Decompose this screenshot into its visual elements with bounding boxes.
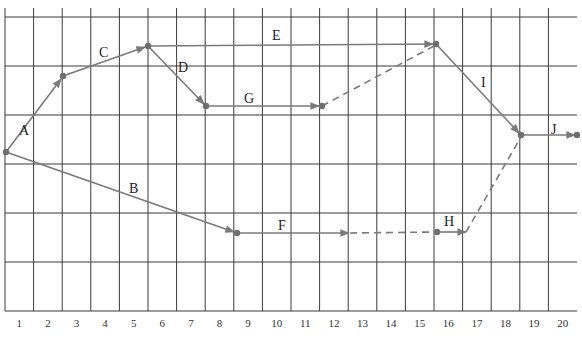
label-a: A — [19, 123, 30, 138]
event-node — [574, 132, 580, 138]
label-c: C — [99, 45, 108, 60]
label-d: D — [178, 60, 188, 75]
time-axis-label: 7 — [188, 317, 194, 329]
time-axis-label: 5 — [131, 317, 137, 329]
event-node — [433, 41, 439, 47]
time-axis-label: 13 — [357, 317, 369, 329]
event-node — [60, 73, 66, 79]
event-node — [203, 103, 209, 109]
time-axis-label: 10 — [271, 317, 283, 329]
label-e: E — [272, 28, 281, 43]
label-i: I — [481, 75, 486, 90]
time-axis-label: 17 — [471, 317, 483, 329]
label-f: F — [278, 218, 286, 233]
time-axis-label: 2 — [45, 317, 51, 329]
time-axis-label: 8 — [217, 317, 223, 329]
time-axis-label: 9 — [245, 317, 251, 329]
grid — [5, 8, 577, 311]
time-axis-label: 6 — [160, 317, 166, 329]
time-axis-label: 14 — [386, 317, 398, 329]
time-axis-labels: 1234567891011121314151617181920 — [17, 317, 569, 329]
event-node — [518, 132, 524, 138]
event-node — [3, 149, 9, 155]
activity-e-arrow — [148, 44, 433, 46]
event-node — [234, 230, 240, 236]
time-axis-label: 16 — [443, 317, 455, 329]
time-axis-label: 20 — [557, 317, 569, 329]
event-node — [319, 103, 325, 109]
label-g: G — [244, 91, 254, 106]
time-axis-label: 12 — [328, 317, 339, 329]
time-axis-label: 18 — [500, 317, 512, 329]
event-node — [145, 43, 151, 49]
time-axis-label: 1 — [17, 317, 23, 329]
event-node — [434, 229, 440, 235]
time-axis-label: 4 — [102, 317, 108, 329]
time-axis-label: 11 — [300, 317, 311, 329]
dummy-dashed-g-to-e — [322, 46, 434, 106]
activity-labels: A B C D E F G H I J — [19, 28, 557, 233]
activity-f-float-dashed — [350, 232, 437, 233]
time-axis-label: 19 — [529, 317, 541, 329]
label-j: J — [551, 122, 557, 137]
time-axis-label: 15 — [414, 317, 426, 329]
time-axis-label: 3 — [74, 317, 80, 329]
label-b: B — [129, 181, 138, 196]
activity-i-arrow — [436, 44, 519, 133]
activity-d-arrow — [148, 46, 204, 104]
activity-h-float-dashed — [466, 137, 521, 232]
network-diagram: A B C D E F G H I J 12345678910111213141… — [0, 0, 582, 339]
label-h: H — [444, 214, 454, 229]
